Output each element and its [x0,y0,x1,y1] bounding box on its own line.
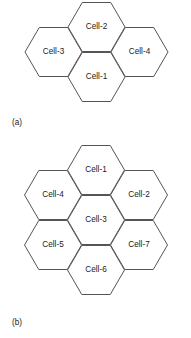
cell-label-cell-7-panel-b: Cell-7 [128,240,150,249]
panel-b-diagram: Cell-1 Cell-4 Cell-2 Cell-3 Cell-5 Cell-… [0,0,191,338]
panel-caption-b: (b) [12,318,22,327]
cell-label-cell-2-panel-b: Cell-2 [128,190,150,199]
cell-label-cell-6-panel-b: Cell-6 [85,265,107,274]
cell-label-cell-4-panel-b: Cell-4 [42,190,64,199]
cellular-cluster-figure: Cell-2 Cell-3 Cell-4 Cell-1 (a) Cell-1 C… [0,0,191,338]
cell-label-cell-1-panel-b: Cell-1 [85,165,107,174]
cell-label-cell-5-panel-b: Cell-5 [42,240,64,249]
cell-label-cell-3-panel-b: Cell-3 [85,215,107,224]
